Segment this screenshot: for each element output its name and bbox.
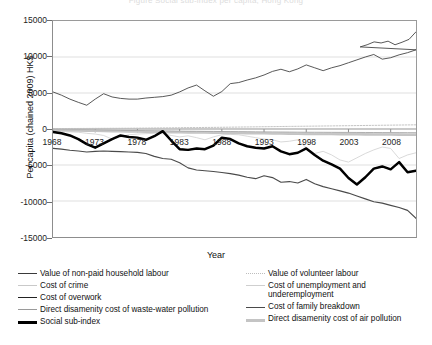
y-axis-tick-label: 15000 — [23, 16, 47, 25]
y-axis-title: Per capita (chained 2009) HK$ — [25, 42, 35, 192]
x-axis-title: Year — [0, 250, 432, 260]
legend-item[interactable]: Social sub-index — [18, 316, 250, 326]
chart-svg — [53, 21, 416, 237]
legend-line-swatch-icon — [246, 302, 265, 312]
legend-line-swatch-icon — [18, 304, 37, 314]
x-axis-tick-label: 2008 — [382, 137, 401, 147]
legend-item[interactable]: Cost of overwork — [18, 292, 250, 302]
legend-item-label: Cost of family breakdown — [268, 302, 360, 312]
x-axis-tick-label: 1983 — [170, 137, 189, 147]
legend: Value of non-paid household labourCost o… — [0, 268, 432, 345]
legend-line-swatch-icon — [18, 280, 37, 290]
legend-line-swatch-icon — [18, 268, 37, 278]
legend-item-label: Value of non-paid household labour — [40, 268, 169, 278]
legend-line-swatch-icon — [246, 268, 265, 278]
legend-item[interactable]: Cost of family breakdown — [246, 302, 432, 312]
legend-item[interactable]: Value of volunteer labour — [246, 268, 432, 278]
clipped-figure-title: Figure Social sub-index per capita, Hong… — [0, 0, 432, 5]
legend-item[interactable]: Direct disamenity cost of air pollution — [246, 314, 432, 324]
legend-item-label: Social sub-index — [40, 316, 100, 326]
legend-line-swatch-icon — [246, 280, 265, 290]
legend-line-swatch-icon — [246, 314, 265, 324]
legend-item[interactable]: Direct disamenity cost of waste-water po… — [18, 304, 250, 314]
legend-item-label: Direct disamenity cost of waste-water po… — [40, 304, 208, 314]
y-axis-tick-label: -10000 — [21, 197, 47, 206]
y-axis-tick-mark — [47, 238, 52, 239]
legend-line-swatch-icon — [18, 292, 37, 302]
legend-item-label: Direct disamenity cost of air pollution — [268, 314, 401, 324]
legend-item[interactable]: Cost of unemployment and underemployment — [246, 280, 432, 300]
x-axis-tick-label: 1973 — [85, 137, 104, 147]
legend-item-label: Cost of crime — [40, 280, 88, 290]
series-line — [53, 125, 416, 129]
series-line — [53, 131, 416, 184]
series-line — [53, 148, 416, 218]
x-axis-tick-label: 1978 — [127, 137, 146, 147]
x-axis-tick-label: 1993 — [255, 137, 274, 147]
series-line — [53, 131, 416, 184]
legend-item-label: Cost of unemployment and underemployment — [268, 280, 432, 300]
legend-item-label: Value of volunteer labour — [268, 268, 358, 278]
y-axis-tick-label: -15000 — [21, 234, 47, 243]
legend-item-label: Cost of overwork — [40, 292, 101, 302]
figure-container: Figure Social sub-index per capita, Hong… — [0, 0, 432, 345]
series-line — [53, 32, 416, 105]
series-line — [53, 131, 416, 162]
plot-area — [52, 20, 417, 238]
legend-column-right: Value of volunteer labourCost of unemplo… — [246, 268, 432, 326]
legend-column-left: Value of non-paid household labourCost o… — [18, 268, 250, 328]
x-axis-tick-label: 2003 — [340, 137, 359, 147]
legend-line-swatch-icon — [18, 316, 37, 326]
legend-item[interactable]: Value of non-paid household labour — [18, 268, 250, 278]
x-axis-tick-label: 1998 — [297, 137, 316, 147]
legend-item[interactable]: Cost of crime — [18, 280, 250, 290]
x-axis-tick-label: 1988 — [212, 137, 231, 147]
x-axis-tick-label: 1968 — [43, 137, 62, 147]
